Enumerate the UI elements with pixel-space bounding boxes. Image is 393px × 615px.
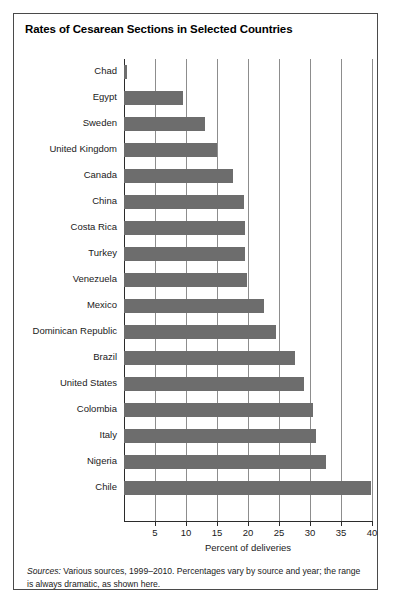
bar [124, 195, 244, 209]
category-label: United Kingdom [49, 142, 117, 156]
x-tick-mark-15 [217, 521, 218, 526]
x-tick-mark-35 [341, 521, 342, 526]
x-tick-mark-20 [248, 521, 249, 526]
x-tick-label-35: 35 [336, 527, 347, 538]
bar-row: Chile [124, 475, 372, 501]
bar [124, 143, 217, 157]
bar-row: Colombia [124, 397, 372, 423]
bar [124, 403, 313, 417]
bar-row: Chad [124, 59, 372, 85]
x-tick-mark-5 [155, 521, 156, 526]
bar [124, 65, 127, 79]
bar-row: Sweden [124, 111, 372, 137]
category-label: China [92, 194, 117, 208]
category-label: Italy [100, 428, 117, 442]
x-tick-label-40: 40 [367, 527, 378, 538]
category-label: Egypt [93, 90, 117, 104]
bar-row: Brazil [124, 345, 372, 371]
bar [124, 325, 276, 339]
bar [124, 299, 264, 313]
x-tick-label-5: 5 [152, 527, 157, 538]
x-tick-mark-10 [186, 521, 187, 526]
category-label: Mexico [87, 298, 117, 312]
x-tick-mark-25 [279, 521, 280, 526]
page-title: Rates of Cesarean Sections in Selected C… [25, 23, 292, 35]
bar [124, 247, 245, 261]
plot-area: ChadEgyptSwedenUnited KingdomCanadaChina… [124, 59, 372, 521]
bar [124, 455, 326, 469]
x-axis-label: Percent of deliveries [124, 542, 372, 553]
bar-row: United States [124, 371, 372, 397]
category-label: Sweden [83, 116, 117, 130]
category-label: Colombia [77, 402, 117, 416]
bar-row: Dominican Republic [124, 319, 372, 345]
x-tick-label-30: 30 [305, 527, 316, 538]
category-label: Brazil [93, 350, 117, 364]
bar [124, 117, 205, 131]
chart-footnote: Sources: Various sources, 1999–2010. Per… [27, 565, 363, 590]
footnote-source-label: Sources: [27, 566, 61, 576]
bar [124, 273, 247, 287]
bar-row: Nigeria [124, 449, 372, 475]
category-label: Venezuela [73, 272, 117, 286]
category-label: Turkey [88, 246, 117, 260]
bar [124, 351, 295, 365]
bar [124, 221, 245, 235]
category-label: Chile [95, 480, 117, 494]
bar-row: Costa Rica [124, 215, 372, 241]
category-label: Nigeria [87, 454, 117, 468]
bar [124, 429, 316, 443]
chart-figure: Rates of Cesarean Sections in Selected C… [13, 13, 378, 590]
bar-row: Italy [124, 423, 372, 449]
bar [124, 481, 371, 495]
bar-row: Venezuela [124, 267, 372, 293]
category-label: Costa Rica [71, 220, 117, 234]
bar-row: United Kingdom [124, 137, 372, 163]
category-label: Chad [94, 64, 117, 78]
bar-row: Turkey [124, 241, 372, 267]
bar [124, 169, 233, 183]
bar [124, 377, 304, 391]
bar-row: Mexico [124, 293, 372, 319]
category-label: United States [60, 376, 117, 390]
x-tick-mark-30 [310, 521, 311, 526]
category-label: Canada [84, 168, 117, 182]
bar-row: Canada [124, 163, 372, 189]
footnote-text: Various sources, 1999–2010. Percentages … [27, 566, 360, 589]
x-tick-label-25: 25 [274, 527, 285, 538]
category-label: Dominican Republic [33, 324, 117, 338]
x-tick-mark-40 [372, 521, 373, 526]
bar [124, 91, 183, 105]
gridline-40 [372, 59, 373, 521]
bar-row: China [124, 189, 372, 215]
x-tick-label-20: 20 [243, 527, 254, 538]
bar-row: Egypt [124, 85, 372, 111]
x-tick-label-10: 10 [181, 527, 192, 538]
x-tick-label-15: 15 [212, 527, 223, 538]
